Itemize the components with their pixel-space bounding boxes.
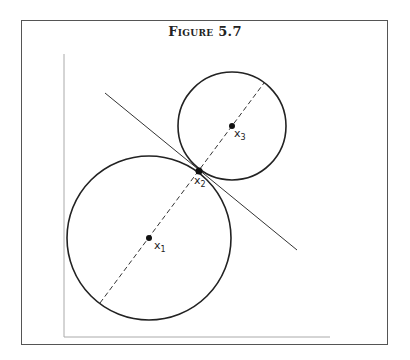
label-x1: x1 xyxy=(154,239,166,254)
diagram-canvas: x1 x2 x3 xyxy=(0,0,410,360)
label-x3: x3 xyxy=(234,127,246,142)
point-x1 xyxy=(146,235,152,241)
center-dashed-line xyxy=(100,83,264,303)
